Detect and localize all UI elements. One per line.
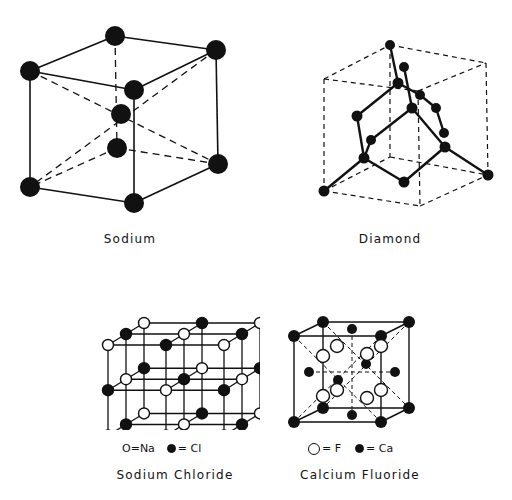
caf2-lattice-drawing bbox=[285, 310, 435, 430]
sodium-caption: Sodium bbox=[80, 232, 180, 246]
nacl-legend: O=Na = Cl bbox=[122, 442, 201, 455]
diamond-diagram bbox=[290, 30, 512, 220]
cl-legend-label: = Cl bbox=[178, 442, 201, 455]
sodium-chloride-diagram bbox=[100, 305, 260, 430]
caf2-legend: = F = Ca bbox=[308, 442, 393, 455]
calcium-fluoride-diagram bbox=[285, 310, 435, 430]
f-legend-dot bbox=[308, 443, 320, 455]
diamond-caption: Diamond bbox=[340, 232, 440, 246]
na-legend-label: O=Na bbox=[122, 442, 155, 455]
cl-legend-dot bbox=[167, 444, 176, 453]
diamond-lattice-drawing bbox=[290, 30, 512, 220]
nacl-lattice-drawing bbox=[100, 305, 260, 430]
sodium-bcc-diagram bbox=[0, 0, 256, 230]
sodium-lattice-drawing bbox=[0, 0, 256, 230]
caf2-caption: Calcium Fluoride bbox=[285, 468, 435, 482]
nacl-caption: Sodium Chloride bbox=[95, 468, 255, 482]
ca-legend-dot bbox=[355, 444, 364, 453]
ca-legend-label: = Ca bbox=[366, 442, 393, 455]
f-legend-label: = F bbox=[322, 442, 341, 455]
